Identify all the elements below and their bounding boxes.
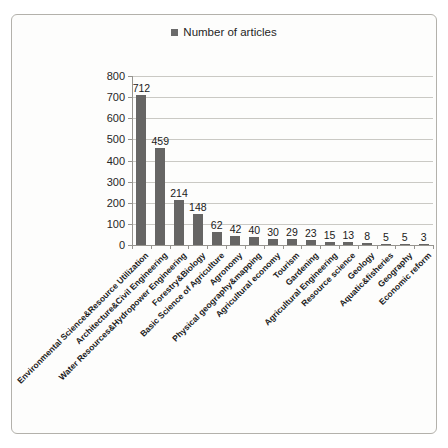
y-gridline [132, 182, 433, 183]
bar-14 [400, 244, 410, 245]
y-gridline [132, 161, 433, 162]
x-axis-tick [245, 245, 246, 249]
y-axis-line [132, 76, 133, 246]
bar-13 [381, 244, 391, 245]
y-axis-tick-label: 800 [91, 70, 125, 82]
bar-6 [249, 237, 259, 245]
y-axis-tick-label: 500 [91, 133, 125, 145]
x-axis-tick [358, 245, 359, 249]
scanned-page: Number of articles 010020030040050060070… [0, 0, 448, 448]
bar-7 [268, 239, 278, 245]
x-axis-tick [339, 245, 340, 249]
y-axis-tick-label: 400 [91, 155, 125, 167]
bar-value-label: 459 [143, 135, 177, 147]
bar-value-label: 214 [162, 187, 196, 199]
x-axis-tick [301, 245, 302, 249]
figure-frame: Number of articles 010020030040050060070… [11, 14, 437, 434]
y-axis-tick-label: 200 [91, 197, 125, 209]
x-axis-tick [132, 245, 133, 249]
bar-8 [287, 239, 297, 245]
bar-10 [325, 242, 335, 245]
y-gridline [132, 118, 433, 119]
y-axis-tick-label: 0 [91, 239, 125, 251]
bar-15 [419, 244, 429, 245]
y-axis-tick-label: 700 [91, 91, 125, 103]
bar-value-label: 712 [124, 82, 158, 94]
bar-0 [136, 95, 146, 245]
y-axis-tick-label: 100 [91, 218, 125, 230]
bar-value-label: 148 [181, 201, 215, 213]
x-axis-tick [320, 245, 321, 249]
x-axis-tick [283, 245, 284, 249]
y-gridline [132, 97, 433, 98]
y-axis-tick-label: 600 [91, 112, 125, 124]
y-axis-tick-label: 300 [91, 176, 125, 188]
x-axis-tick [377, 245, 378, 249]
legend-label: Number of articles [183, 26, 276, 38]
x-axis-tick [414, 245, 415, 249]
x-axis-tick [188, 245, 189, 249]
y-gridline [132, 76, 433, 77]
x-axis-tick [207, 245, 208, 249]
bar-11 [343, 242, 353, 245]
bar-5 [230, 236, 240, 245]
x-axis-tick [264, 245, 265, 249]
legend-series-marker-icon [171, 29, 178, 36]
bar-value-label: 3 [407, 231, 437, 243]
x-axis-tick [170, 245, 171, 249]
bar-9 [306, 240, 316, 245]
x-axis-tick [151, 245, 152, 249]
x-axis-tick [226, 245, 227, 249]
x-axis-tick [433, 245, 434, 249]
bar-12 [362, 243, 372, 245]
x-axis-tick [395, 245, 396, 249]
chart-legend: Number of articles [12, 26, 436, 38]
